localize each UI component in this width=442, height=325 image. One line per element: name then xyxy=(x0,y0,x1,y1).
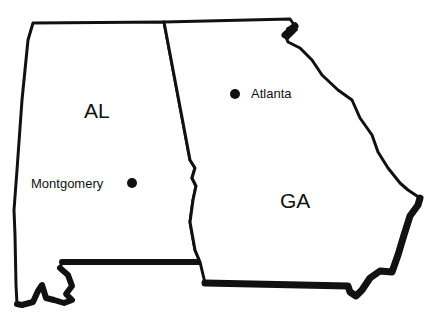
state-label-ga: GA xyxy=(280,190,310,211)
city-marker-montgomery xyxy=(127,178,137,188)
city-label-atlanta: Atlanta xyxy=(251,87,291,100)
map-canvas xyxy=(0,0,442,325)
city-marker-atlanta xyxy=(230,89,240,99)
city-label-montgomery: Montgomery xyxy=(31,177,103,190)
state-label-al: AL xyxy=(84,100,110,121)
georgia-outline xyxy=(164,19,420,296)
